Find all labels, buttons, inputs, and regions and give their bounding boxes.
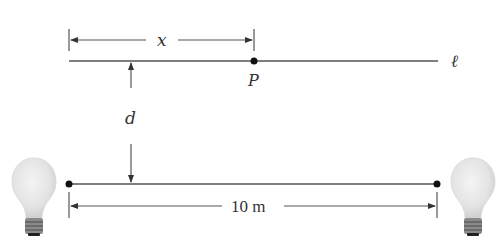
d-label: d [125, 108, 136, 128]
bulb-separation-line [66, 181, 441, 188]
right-bulb-icon [451, 158, 495, 236]
right-endpoint-dot [434, 181, 441, 188]
left-endpoint-dot [66, 181, 73, 188]
distance-label: 10 m [231, 197, 265, 216]
point-p [251, 58, 258, 65]
line-l-label: ℓ [451, 51, 458, 71]
point-p-label: P [247, 71, 259, 90]
x-label: x [157, 30, 167, 50]
left-bulb-icon [12, 158, 56, 236]
diagram-canvas: ℓ P x d 10 m [0, 0, 501, 244]
